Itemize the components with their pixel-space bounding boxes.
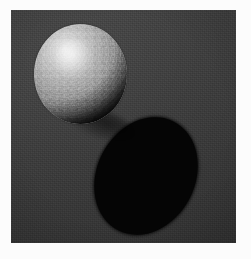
sphere-specular-highlight — [56, 40, 93, 78]
image-viewport — [0, 0, 251, 259]
sphere-object — [34, 24, 127, 124]
render-plate — [11, 10, 236, 243]
